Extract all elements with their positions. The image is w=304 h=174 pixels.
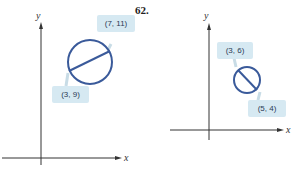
- endpoint-label: (7, 11): [105, 19, 128, 28]
- x-axis-arrow-icon: [277, 128, 284, 132]
- y-axis-label: y: [203, 10, 209, 21]
- y-axis-arrow-icon: [39, 22, 43, 29]
- endpoint-label: (3, 6): [226, 46, 245, 55]
- endpoint-label: (3, 9): [61, 90, 80, 99]
- figure-right: y x (3, 6) (5, 4): [152, 0, 304, 174]
- x-axis-label: x: [123, 152, 129, 163]
- y-axis-label: y: [35, 10, 41, 21]
- diameter: [238, 70, 257, 90]
- diameter: [69, 51, 110, 71]
- endpoint-label: (5, 4): [258, 104, 277, 113]
- figure-left: y x (7, 11) (3, 9): [0, 0, 150, 174]
- y-axis-arrow-icon: [207, 23, 211, 30]
- circle: [68, 40, 112, 84]
- x-axis-arrow-icon: [115, 156, 122, 160]
- x-axis-label: x: [285, 124, 291, 135]
